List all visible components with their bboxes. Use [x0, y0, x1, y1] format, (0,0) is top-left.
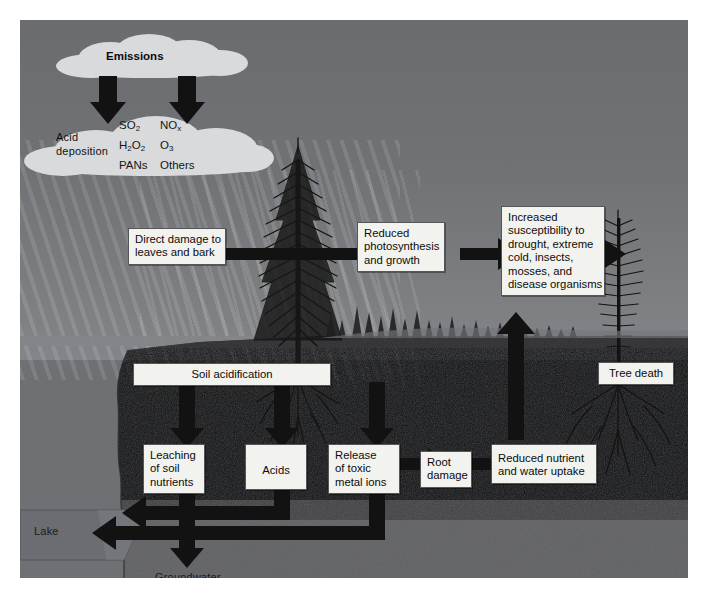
box-direct-damage[interactable]: Direct damage to leaves and bark — [128, 228, 226, 265]
box-toxic-metals[interactable]: Release of toxic metal ions — [328, 444, 400, 494]
box-reduced-uptake-line2: and water uptake — [498, 465, 590, 478]
arrow-layer — [20, 20, 688, 578]
box-acids-line1: Acids — [252, 464, 300, 477]
box-increased-susceptibility-line3: drought, extreme — [508, 238, 598, 251]
box-increased-susceptibility-line2: susceptibility to — [508, 224, 598, 237]
box-soil-acidification[interactable]: Soil acidification — [133, 363, 331, 386]
box-leaching-line2: of soil — [150, 462, 198, 475]
box-root-damage[interactable]: Root damage — [420, 451, 472, 488]
box-reduced-photosynthesis-line2: photosynthesis — [364, 240, 438, 253]
arrow-soil-to-acids — [265, 382, 299, 448]
box-reduced-photosynthesis[interactable]: Reduced photosynthesis and growth — [357, 222, 445, 272]
arrow-emissions-left — [90, 76, 126, 124]
box-direct-damage-line2: leaves and bark — [135, 246, 219, 259]
box-reduced-photosynthesis-line1: Reduced — [364, 227, 438, 240]
box-leaching-line3: nutrients — [150, 476, 198, 489]
box-toxic-metals-line3: metal ions — [335, 476, 393, 489]
box-reduced-uptake[interactable]: Reduced nutrient and water uptake — [491, 444, 597, 484]
box-soil-acidification-line1: Soil acidification — [140, 368, 324, 381]
box-increased-susceptibility-line4: cold, insects, — [508, 251, 598, 264]
box-increased-susceptibility-line6: disease organisms — [508, 278, 598, 291]
box-reduced-photosynthesis-line3: and growth — [364, 254, 438, 267]
box-direct-damage-line1: Direct damage to — [135, 233, 219, 246]
box-tree-death-line1: Tree death — [605, 367, 667, 380]
arrow-soil-to-leaching — [170, 382, 204, 448]
box-acids[interactable]: Acids — [245, 444, 307, 490]
box-root-damage-line1: Root — [427, 456, 465, 469]
box-leaching-line1: Leaching — [150, 449, 198, 462]
box-increased-susceptibility-line1: Increased — [508, 211, 598, 224]
box-reduced-uptake-line1: Reduced nutrient — [498, 452, 590, 465]
lake-label: Lake — [34, 525, 59, 537]
diagram-scene: Emissions Acid deposition SO2 H2O2 PANs … — [20, 20, 688, 578]
box-tree-death[interactable]: Tree death — [598, 362, 674, 385]
box-toxic-metals-line2: of toxic — [335, 462, 393, 475]
arrow-emissions-right — [169, 76, 205, 124]
arrow-soil-to-metals — [360, 382, 394, 448]
diagram-page: Emissions Acid deposition SO2 H2O2 PANs … — [0, 0, 709, 595]
box-root-damage-line2: damage — [427, 469, 465, 482]
box-leaching[interactable]: Leaching of soil nutrients — [143, 444, 205, 494]
groundwater-label: Groundwater — [155, 571, 221, 578]
box-increased-susceptibility-line5: mosses, and — [508, 265, 598, 278]
arrow-uptake-to-suscept — [497, 312, 535, 440]
arrow-damage-to-photo — [205, 238, 381, 270]
box-toxic-metals-line1: Release — [335, 449, 393, 462]
box-increased-susceptibility[interactable]: Increased susceptibility to drought, ext… — [501, 206, 605, 296]
